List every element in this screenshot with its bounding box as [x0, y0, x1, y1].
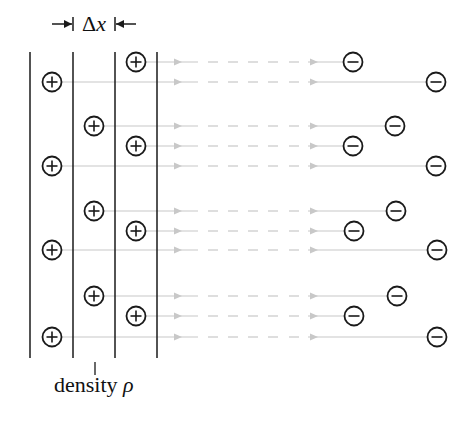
arrow-icon: [174, 293, 182, 300]
delta-x-label: Δx: [82, 11, 106, 37]
positive-charge-icon: [43, 241, 62, 260]
negative-charge-icon: [427, 157, 446, 176]
arrow-icon: [310, 123, 318, 130]
field-line: [146, 59, 343, 66]
arrow-icon: [310, 293, 318, 300]
field-line: [62, 334, 427, 341]
positive-charge-icon: [43, 73, 62, 92]
arrow-icon: [174, 163, 182, 170]
arrow-icon: [310, 228, 318, 235]
negative-charge-icon: [345, 222, 364, 241]
arrow-icon: [174, 208, 182, 215]
negative-charge-icon: [388, 287, 407, 306]
field-lines: [62, 59, 427, 341]
field-line: [62, 79, 426, 86]
positive-charge-icon: [127, 222, 146, 241]
field-line: [146, 313, 344, 320]
positive-charge-icon: [85, 202, 104, 221]
arrow-icon: [310, 59, 318, 66]
charge-layer-diagram: [0, 0, 475, 425]
arrow-icon: [174, 334, 182, 341]
positive-charges: [43, 53, 146, 347]
density-label: density ρ: [54, 372, 134, 398]
negative-charge-icon: [386, 117, 405, 136]
arrow-icon: [174, 123, 182, 130]
positive-charge-icon: [85, 287, 104, 306]
arrow-icon: [174, 59, 182, 66]
arrow-right-icon: [64, 20, 72, 28]
negative-charge-icon: [387, 202, 406, 221]
positive-charge-icon: [127, 53, 146, 72]
arrow-icon: [174, 79, 182, 86]
negative-charge-icon: [428, 241, 447, 260]
field-line: [104, 293, 387, 300]
negative-charge-icon: [345, 307, 364, 326]
field-line: [146, 228, 344, 235]
positive-charge-icon: [43, 157, 62, 176]
negative-charge-icon: [344, 53, 363, 72]
arrow-icon: [174, 247, 182, 254]
positive-charge-icon: [85, 117, 104, 136]
arrow-icon: [310, 247, 318, 254]
arrow-icon: [310, 313, 318, 320]
field-line: [62, 163, 426, 170]
arrow-icon: [174, 228, 182, 235]
arrow-icon: [310, 79, 318, 86]
positive-charge-icon: [127, 137, 146, 156]
arrow-left-icon: [116, 20, 124, 28]
arrow-icon: [310, 143, 318, 150]
arrow-icon: [174, 143, 182, 150]
positive-charge-icon: [127, 307, 146, 326]
arrow-icon: [310, 208, 318, 215]
negative-charge-icon: [344, 137, 363, 156]
field-line: [146, 143, 343, 150]
positive-charge-icon: [43, 328, 62, 347]
field-line: [62, 247, 427, 254]
negative-charge-icon: [427, 73, 446, 92]
arrow-icon: [310, 163, 318, 170]
negative-charge-icon: [428, 328, 447, 347]
field-line: [104, 123, 385, 130]
negative-charges: [344, 53, 447, 347]
arrow-icon: [310, 334, 318, 341]
field-line: [104, 208, 386, 215]
arrow-icon: [174, 313, 182, 320]
